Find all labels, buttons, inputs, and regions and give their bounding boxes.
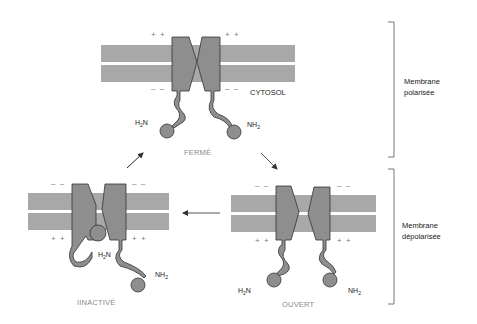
amine-open-left: H2N bbox=[238, 287, 251, 296]
charge-minus-closed-left: – – bbox=[151, 84, 165, 93]
charge-minus-open-right: – – bbox=[337, 181, 351, 190]
state-label-closed: FERMÉ bbox=[184, 148, 211, 157]
charge-minus-inactive-right: – – bbox=[132, 179, 146, 188]
membrane-inactive bbox=[28, 193, 169, 230]
amine-closed-right: NH2 bbox=[247, 121, 260, 130]
charge-minus-open-left: – – bbox=[255, 181, 269, 190]
charge-plus-open-right: + + bbox=[337, 236, 352, 245]
charge-plus-inactive-right: + + bbox=[132, 234, 147, 243]
ion-channel-diagram bbox=[0, 0, 477, 324]
cytosol-label: CYTOSOL bbox=[250, 89, 286, 97]
charge-minus-inactive-left: – – bbox=[51, 179, 65, 188]
label-depolarized-membrane: Membrane dépolarisée bbox=[402, 220, 441, 242]
state-label-inactive: IINACTIVÉ bbox=[77, 298, 115, 307]
state-label-open: OUVERT bbox=[282, 300, 314, 309]
bracket-polarized bbox=[388, 22, 394, 157]
charge-plus-closed-left: + + bbox=[151, 30, 166, 39]
label-polarized-membrane: Membrane polarisée bbox=[404, 76, 440, 98]
charge-plus-open-left: + + bbox=[255, 236, 270, 245]
arrow-inactive-to-closed bbox=[127, 153, 143, 168]
amine-open-right: NH2 bbox=[348, 287, 361, 296]
charge-plus-closed-right: + + bbox=[225, 30, 240, 39]
bracket-depolarized bbox=[388, 169, 394, 304]
charge-minus-closed-right: – – bbox=[225, 84, 239, 93]
charge-plus-inactive-left: + + bbox=[51, 234, 66, 243]
amine-closed-left: H2N bbox=[135, 119, 148, 128]
membrane-open bbox=[231, 195, 376, 232]
amine-inactive-right: NH2 bbox=[155, 271, 168, 280]
amine-inactive-inner: H2N bbox=[98, 251, 111, 260]
arrow-closed-to-open bbox=[261, 153, 277, 169]
